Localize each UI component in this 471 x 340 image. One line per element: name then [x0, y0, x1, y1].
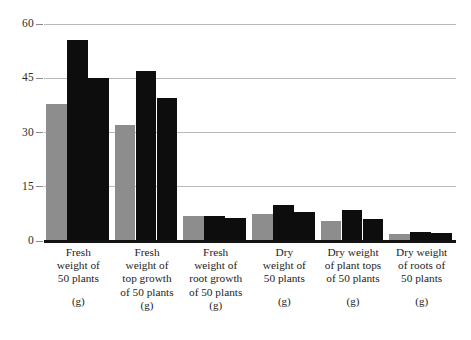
bar: [342, 210, 363, 241]
x-axis-label: Dry weightof roots of50 plants(g): [381, 246, 462, 308]
bar-group: [250, 24, 319, 241]
bars-layer: [44, 24, 456, 241]
bar: [252, 214, 273, 241]
y-tick-mark-0: [36, 241, 43, 242]
x-axis-baseline: [44, 240, 456, 243]
y-tick-mark-15: [36, 186, 43, 187]
bar: [46, 104, 67, 241]
x-axis-category-labels: Freshweight of50 plants(g)Freshweight of…: [44, 246, 456, 340]
bar: [321, 221, 342, 241]
plot-area: [44, 24, 456, 241]
bar: [115, 125, 136, 241]
y-tick-mark-30: [36, 132, 43, 133]
bar: [225, 218, 246, 242]
bar-group: [319, 24, 388, 241]
bar: [67, 40, 88, 241]
y-tick-label-45: 45: [4, 72, 34, 84]
y-tick-label-15: 15: [4, 181, 34, 193]
bar-group: [387, 24, 456, 241]
x-axis-unit-label: (g): [381, 295, 462, 308]
x-axis-label-line: of roots of: [381, 259, 462, 272]
bar: [136, 71, 157, 241]
bar: [204, 216, 225, 241]
y-tick-mark-60: [36, 24, 43, 25]
bar-group: [181, 24, 250, 241]
x-axis-label-line: 50 plants: [381, 272, 462, 285]
bar-chart: 015304560 Freshweight of50 plants(g)Fres…: [0, 0, 471, 340]
y-tick-label-60: 60: [4, 18, 34, 30]
bar-group: [44, 24, 113, 241]
x-axis-label-line: Dry weight: [381, 246, 462, 259]
bar: [294, 212, 315, 241]
bar: [363, 219, 384, 241]
y-tick-label-30: 30: [4, 127, 34, 139]
bar-group: [113, 24, 182, 241]
bar: [273, 205, 294, 241]
y-tick-mark-45: [36, 78, 43, 79]
bar: [157, 98, 178, 241]
bar: [88, 78, 109, 241]
bar: [183, 216, 204, 241]
y-tick-label-0: 0: [4, 235, 34, 247]
